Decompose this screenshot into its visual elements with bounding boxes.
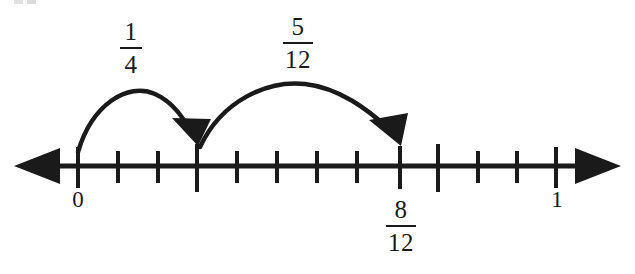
- result-denominator: 12: [377, 229, 425, 256]
- axis-left-arrowhead: [14, 148, 60, 184]
- jump-two-numerator: 5: [274, 13, 322, 40]
- result-numerator: 8: [377, 196, 425, 223]
- result-fraction-bar: [386, 225, 416, 227]
- jump-two-fraction-label: 5 12: [274, 13, 322, 73]
- tick-label-zero: 0: [66, 188, 90, 211]
- jump-one-fraction-bar: [120, 47, 142, 49]
- jump-arc-2: [200, 84, 388, 147]
- jump-two-denominator: 12: [274, 46, 322, 73]
- number-line-figure: 1 4 5 12 8 12 0 1: [0, 0, 635, 274]
- jump-one-denominator: 4: [111, 51, 151, 78]
- jump-one-numerator: 1: [111, 18, 151, 45]
- tick-label-one: 1: [545, 188, 569, 211]
- result-fraction-label: 8 12: [377, 196, 425, 256]
- jump-arrowhead-1: [172, 118, 211, 146]
- jump-one-fraction-label: 1 4: [111, 18, 151, 78]
- jump-arc-1: [78, 91, 191, 152]
- axis-right-arrowhead: [575, 148, 621, 184]
- jump-two-fraction-bar: [283, 42, 313, 44]
